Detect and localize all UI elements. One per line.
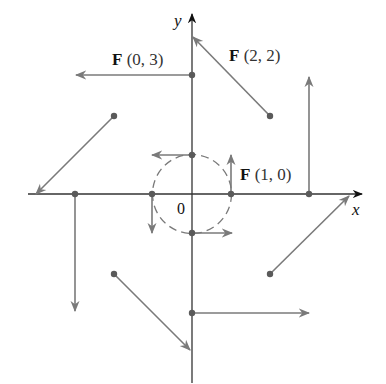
x-axis-label: x <box>352 200 360 220</box>
label-f-2-2: F (2, 2) <box>229 46 280 66</box>
origin-label: 0 <box>177 200 185 218</box>
vector-neg2-2 <box>36 116 114 194</box>
y-axis-label: y <box>174 11 182 31</box>
label-f-1-0: F (1, 0) <box>240 165 291 185</box>
vector-neg2-neg2 <box>114 274 190 350</box>
vector-field-diagram: y x 0 F (0, 3) F (2, 2) F (1, 0) <box>0 0 386 384</box>
diagram-canvas <box>0 0 386 384</box>
label-f-0-3: F (0, 3) <box>112 50 163 70</box>
vector-2-neg2 <box>270 196 349 274</box>
